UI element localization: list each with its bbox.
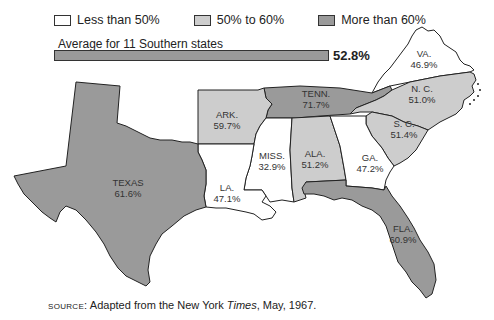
label-ms-value: 32.9%	[259, 161, 286, 172]
label-al-abbr: ALA.	[305, 148, 326, 159]
label-ar-abbr: ARK.	[216, 109, 238, 120]
label-ga-value: 47.2%	[357, 163, 384, 174]
label-va-value: 46.9%	[411, 59, 438, 70]
label-ms-abbr: MISS.	[259, 150, 285, 161]
label-al-value: 51.2%	[302, 159, 329, 170]
state-texas	[14, 82, 206, 286]
source-italic: Times	[227, 299, 257, 311]
label-nc-value: 51.0%	[409, 94, 436, 105]
label-tx-abbr: TEXAS	[112, 177, 143, 188]
label-sc-value: 51.4%	[391, 129, 418, 140]
label-fl-value: 60.9%	[390, 234, 417, 245]
source-prefix: SOURCE:	[48, 299, 87, 311]
label-sc-abbr: S. C.	[393, 118, 414, 129]
source-text-after: , May, 1967.	[257, 299, 317, 311]
label-nc-abbr: N. C.	[411, 83, 433, 94]
label-ar-value: 59.7%	[214, 120, 241, 131]
label-la-abbr: LA.	[220, 182, 234, 193]
label-la-value: 47.1%	[214, 193, 241, 204]
source-text-before: Adapted from the New York	[87, 299, 226, 311]
label-tn-value: 71.7%	[303, 99, 330, 110]
source-note: SOURCE: Adapted from the New York Times,…	[48, 299, 316, 311]
label-ga-abbr: GA.	[362, 152, 378, 163]
label-tn-abbr: TENN.	[302, 88, 331, 99]
label-va-abbr: VA.	[417, 48, 432, 59]
label-tx-value: 61.6%	[115, 188, 142, 199]
southern-states-map: VA. 46.9% N. C. 51.0% TENN. 71.7% ARK. 5…	[0, 0, 494, 320]
label-fl-abbr: FLA.	[393, 223, 413, 234]
